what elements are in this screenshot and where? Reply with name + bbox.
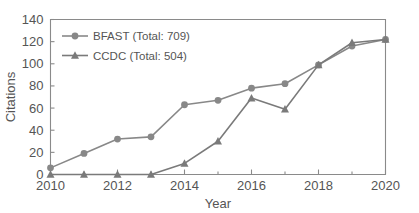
y-tick-label: 40 — [29, 123, 43, 138]
y-tick-label: 60 — [29, 101, 43, 116]
y-tick-label: 120 — [22, 34, 44, 49]
data-point-circle — [248, 85, 255, 92]
y-tick-label: 80 — [29, 78, 43, 93]
data-point-circle — [72, 33, 79, 40]
legend-label: BFAST (Total: 709) — [93, 30, 190, 42]
legend-label: CCDC (Total: 504) — [93, 50, 187, 62]
x-tick-label: 2014 — [170, 178, 199, 193]
data-point-circle — [215, 97, 222, 104]
y-tick-label: 100 — [22, 56, 44, 71]
data-point-circle — [81, 150, 88, 157]
data-point-circle — [181, 101, 188, 108]
x-tick-label: 2010 — [36, 178, 65, 193]
x-tick-label: 2018 — [304, 178, 333, 193]
y-tick-label: 20 — [29, 145, 43, 160]
chart-canvas: 020406080100120140 201020122014201620182… — [0, 0, 419, 213]
data-point-circle — [47, 164, 54, 171]
y-axis-title: Citations — [3, 71, 18, 122]
citations-line-chart: 020406080100120140 201020122014201620182… — [0, 0, 419, 213]
data-point-circle — [148, 133, 155, 140]
data-point-circle — [114, 136, 121, 143]
x-axis-title: Year — [205, 196, 232, 211]
data-point-circle — [282, 80, 289, 87]
x-tick-label: 2012 — [103, 178, 132, 193]
y-tick-label: 140 — [22, 12, 44, 27]
x-tick-label: 2020 — [371, 178, 400, 193]
x-tick-label: 2016 — [237, 178, 266, 193]
